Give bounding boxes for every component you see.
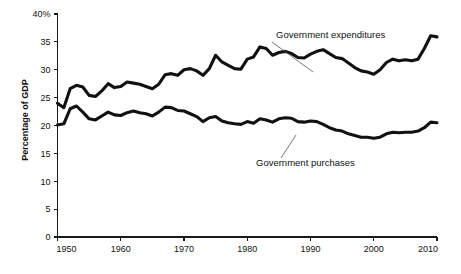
y-axis-ticks: 0510152025303540% — [32, 9, 57, 242]
annotation-label: Government purchases — [256, 157, 355, 168]
x-tick-label: 2000 — [364, 244, 384, 254]
y-tick-label: 10 — [40, 177, 50, 187]
y-tick-label: 25 — [40, 93, 50, 103]
y-tick-label: 15 — [40, 149, 50, 159]
x-tick-label: 1960 — [111, 244, 131, 254]
y-tick-label: 20 — [40, 121, 50, 131]
series-line-government-expenditures — [58, 36, 438, 108]
x-tick-label: 1950 — [56, 244, 76, 254]
y-axis-title-group: Percentage of GDP — [20, 79, 30, 161]
series-line-government-purchases — [58, 106, 438, 138]
y-tick-label: 0 — [45, 232, 50, 242]
series-group — [58, 36, 438, 139]
annotation-leader-line — [281, 135, 296, 158]
y-tick-label: 30 — [40, 65, 50, 75]
y-axis-title: Percentage of GDP — [20, 79, 30, 161]
x-axis-ticks: 1950196019701980199020002010 — [56, 237, 438, 254]
y-tick-label: 35 — [40, 37, 50, 47]
y-tick-label: 5 — [45, 204, 50, 214]
gdp-percentage-line-chart: Percentage of GDP 0510152025303540% 1950… — [0, 0, 461, 274]
chart-container: Percentage of GDP 0510152025303540% 1950… — [0, 0, 461, 274]
x-tick-label: 1970 — [174, 244, 194, 254]
x-tick-label: 1980 — [237, 244, 257, 254]
x-tick-label: 2010 — [418, 244, 438, 254]
y-tick-label: 40% — [32, 9, 50, 19]
annotation-label: Government expenditures — [276, 29, 386, 40]
x-tick-label: 1990 — [300, 244, 320, 254]
